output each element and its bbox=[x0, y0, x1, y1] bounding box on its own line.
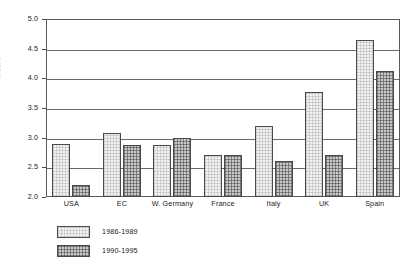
x-axis-label: Italy bbox=[248, 200, 299, 208]
x-axis-labels: USAECW. GermanyFranceItalyUKSpain bbox=[46, 200, 400, 212]
bar bbox=[103, 133, 121, 197]
x-axis-label: W. Germany bbox=[147, 200, 198, 208]
bars-layer bbox=[46, 19, 400, 197]
y-tick-label: 3.5 bbox=[12, 104, 38, 111]
bar bbox=[275, 161, 293, 197]
x-axis-label: EC bbox=[97, 200, 148, 208]
legend-swatch bbox=[57, 226, 90, 238]
bar bbox=[52, 144, 70, 197]
bar bbox=[153, 145, 171, 197]
x-axis-label: France bbox=[198, 200, 249, 208]
y-tick-label: 2.0 bbox=[12, 193, 38, 200]
bar-chart: Percent 5.04.54.03.53.02.52.0 USAECW. Ge… bbox=[0, 0, 416, 279]
bar bbox=[255, 126, 273, 197]
bar bbox=[376, 71, 394, 197]
y-tick-label: 2.5 bbox=[12, 163, 38, 170]
bar bbox=[123, 145, 141, 197]
legend-label: 1986-1989 bbox=[102, 228, 138, 236]
x-axis-label: USA bbox=[46, 200, 97, 208]
x-axis-label: UK bbox=[299, 200, 350, 208]
y-tick-label: 3.0 bbox=[12, 134, 38, 141]
x-axis-label: Spain bbox=[349, 200, 400, 208]
y-tick-label: 4.5 bbox=[12, 45, 38, 52]
bar bbox=[72, 185, 90, 197]
y-axis-title: Percent bbox=[0, 58, 1, 84]
bar bbox=[173, 138, 191, 197]
legend-swatch bbox=[57, 245, 90, 257]
y-tick-label: 5.0 bbox=[12, 15, 38, 22]
bar bbox=[305, 92, 323, 197]
y-tick-mark bbox=[42, 197, 46, 198]
bar bbox=[325, 155, 343, 197]
bar bbox=[224, 155, 242, 197]
y-tick-label: 4.0 bbox=[12, 74, 38, 81]
bar bbox=[204, 155, 222, 197]
bar bbox=[356, 40, 374, 197]
legend-label: 1990-1995 bbox=[102, 247, 138, 255]
